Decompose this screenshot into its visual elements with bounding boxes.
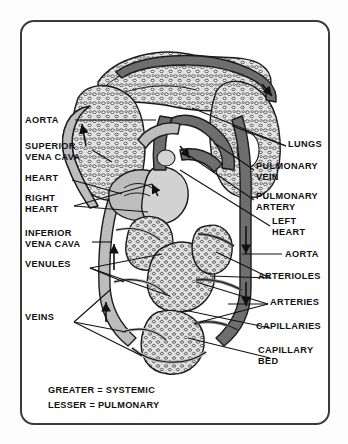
label-left-heart: LEFT HEART: [272, 216, 305, 237]
label-venules: VENULES: [25, 259, 71, 270]
label-superior-vena-cava: SUPERIOR VENA CAVA: [25, 141, 81, 162]
label-lungs: LUNGS: [288, 139, 322, 150]
legend-lesser-pulmonary: LESSER = PULMONARY: [48, 398, 160, 412]
label-aorta-right: AORTA: [285, 249, 319, 260]
label-aorta: AORTA: [25, 115, 59, 126]
label-right-heart: RIGHT HEART: [25, 193, 58, 214]
label-capillary-bed: CAPILLARY BED: [258, 345, 313, 366]
label-capillaries: CAPILLARIES: [256, 321, 321, 332]
label-pulmonary-vein: PULMONARY VEIN: [256, 161, 318, 182]
label-veins: VEINS: [25, 312, 54, 323]
label-arterioles: ARTERIOLES: [258, 271, 321, 282]
label-pulmonary-artery: PULMONARY ARTERY: [256, 191, 318, 212]
label-inferior-vena-cava: INFERIOR VENA CAVA: [25, 228, 81, 249]
label-heart: HEART: [25, 173, 58, 184]
label-arteries: ARTERIES: [270, 297, 319, 308]
legend-greater-systemic: GREATER = SYSTEMIC: [48, 383, 155, 397]
figure-page: AORTASUPERIOR VENA CAVAHEARTRIGHT HEARTI…: [0, 0, 348, 444]
